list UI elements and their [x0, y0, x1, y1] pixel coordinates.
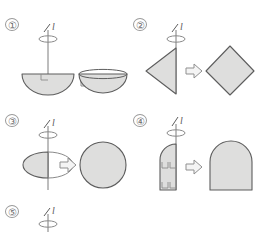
axis-label: l: [52, 205, 55, 216]
item-1-drawing: l: [0, 16, 128, 94]
item-4-drawing: l: [128, 112, 256, 190]
figure-sheet: ① l ② l: [0, 0, 256, 232]
axis-label: l: [180, 21, 183, 32]
transform-arrow-icon: [60, 158, 76, 172]
item-5-drawing: l: [0, 200, 128, 232]
axis-tick-mark: [44, 120, 50, 128]
axis-tick-mark: [172, 117, 178, 126]
axis-label: l: [52, 117, 55, 128]
result-shape-rhombus-bicone: [206, 46, 254, 95]
result-shape-sphere: [80, 142, 126, 188]
item-4: ④ l: [128, 112, 256, 190]
cut-off-text-line: [0, 0, 256, 13]
source-shape-half-ellipse: [23, 152, 48, 178]
item-5: ⑤ l: [0, 200, 128, 232]
item-3: ③ l: [0, 112, 128, 190]
item-2-drawing: l: [128, 16, 256, 94]
item-3-drawing: l: [0, 112, 128, 190]
source-shape-triangle: [146, 48, 176, 94]
axis-tick-mark: [172, 24, 178, 32]
item-1: ① l: [0, 16, 128, 94]
axis-tick-mark: [44, 208, 50, 216]
axis-label: l: [52, 21, 55, 32]
transform-arrow-icon: [186, 160, 202, 174]
axis-label: l: [180, 115, 183, 126]
source-shape-half-disc: [22, 74, 74, 95]
item-2: ② l: [128, 16, 256, 94]
result-shape-dome-cylinder: [210, 141, 252, 190]
axis-tick-mark: [44, 24, 50, 32]
transform-arrow-icon: [186, 64, 202, 78]
